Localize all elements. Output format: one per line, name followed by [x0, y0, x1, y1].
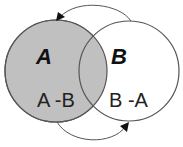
arrow-a-to-b [57, 122, 126, 140]
set-a-label: A [35, 44, 52, 69]
region-a-minus-b-label: A -B [37, 89, 75, 111]
venn-diagram-canvas: A B A -B B -A [0, 0, 183, 147]
set-b-label: B [111, 44, 127, 69]
region-b-minus-a-label: B -A [109, 89, 149, 111]
venn-diagram: A B A -B B -A [0, 0, 183, 147]
arrow-b-to-a [60, 5, 131, 21]
